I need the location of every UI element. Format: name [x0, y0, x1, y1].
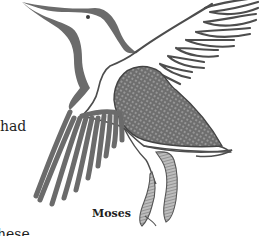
lower-wing — [36, 112, 122, 204]
body-text-fragment: hese — [0, 226, 30, 236]
bird-legs — [140, 152, 177, 226]
eye-icon — [86, 15, 90, 19]
book-page: had hese Moses — [0, 0, 261, 236]
bird-body — [82, 52, 232, 157]
body-text-fragment: had — [0, 118, 26, 134]
bird-illustration — [0, 0, 261, 236]
illustration-caption: Moses — [92, 207, 131, 220]
